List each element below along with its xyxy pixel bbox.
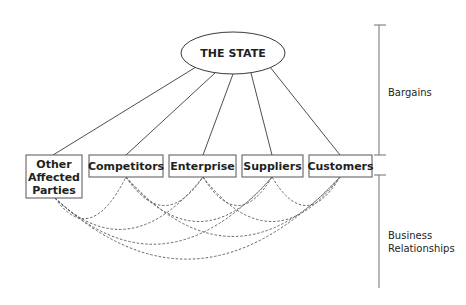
state-label: THE STATE xyxy=(200,47,265,60)
state-node: THE STATE xyxy=(181,32,285,74)
party-label-line-2: Affected xyxy=(28,171,80,184)
arc-competitors-customers xyxy=(126,177,340,237)
link-state-customers xyxy=(270,67,340,155)
arc-competitors-enterprise xyxy=(126,177,203,206)
party-label: Competitors xyxy=(88,160,165,173)
arc-suppliers-customers xyxy=(272,177,340,206)
arc-other-customers xyxy=(55,177,340,259)
link-state-suppliers xyxy=(251,73,272,155)
business-relationships-label-line-2: Relationships xyxy=(388,243,455,254)
party-other-affected-parties: Other Affected Parties xyxy=(26,155,82,198)
party-label: Customers xyxy=(307,160,374,173)
arc-other-suppliers xyxy=(55,177,272,244)
party-label: Enterprise xyxy=(170,160,235,173)
party-label-line-3: Parties xyxy=(32,184,76,197)
business-relationships-label-line-1: Business xyxy=(388,230,432,241)
business-relationship-arcs xyxy=(55,177,340,259)
arc-enterprise-suppliers xyxy=(203,177,272,206)
link-state-enterprise xyxy=(203,74,233,155)
link-state-other xyxy=(53,67,196,155)
arc-enterprise-customers xyxy=(203,177,340,222)
bracket-bargains: Bargains xyxy=(374,25,432,155)
bracket-business-relationships: Business Relationships xyxy=(374,175,455,288)
state-business-diagram: THE STATE Other Affected Parties Competi… xyxy=(0,0,466,305)
link-state-competitors xyxy=(126,73,215,155)
party-label: Suppliers xyxy=(243,160,302,173)
party-enterprise: Enterprise xyxy=(169,155,236,177)
party-label-line-1: Other xyxy=(36,158,72,171)
bargain-links xyxy=(53,67,340,155)
bargains-label: Bargains xyxy=(388,87,432,98)
party-nodes: Other Affected Parties Competitors Enter… xyxy=(26,155,374,198)
party-customers: Customers xyxy=(307,155,374,177)
party-suppliers: Suppliers xyxy=(242,155,303,177)
party-competitors: Competitors xyxy=(88,155,165,177)
